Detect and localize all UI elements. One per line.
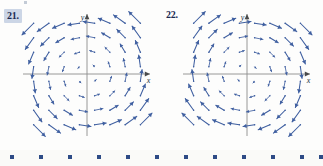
vector-arrow	[216, 105, 225, 111]
vector-arrow	[239, 35, 248, 39]
vector-tail-dot	[79, 37, 81, 39]
vector-arrow	[48, 110, 57, 119]
vector-tail-dot	[79, 110, 81, 112]
vector-field-figure-22: xy	[178, 8, 318, 146]
vector-arrow	[109, 91, 115, 97]
vector-arrow	[300, 52, 306, 64]
vector-arrow	[208, 44, 214, 53]
vector-arrow	[79, 110, 88, 114]
vector-tail-dot	[269, 124, 271, 126]
vector-tail-dot	[193, 95, 195, 97]
vector-arrow	[234, 94, 240, 97]
vector-arrow	[140, 113, 152, 125]
vector-tail-dot	[109, 52, 111, 54]
x-axis-label: x	[146, 76, 151, 85]
vector-tail-dot	[223, 37, 225, 39]
vector-tail-dot	[94, 95, 96, 97]
vector-arrow	[117, 29, 126, 38]
quiver-svg-22: xy	[178, 8, 318, 146]
vector-arrow	[124, 116, 136, 125]
vector-tail-dot	[94, 52, 96, 54]
vector-tail-dot	[300, 23, 302, 25]
vector-tail-dot	[124, 124, 126, 126]
vector-arrow	[284, 37, 293, 46]
vector-tail-dot	[208, 52, 210, 54]
vector-tail-dot	[223, 66, 225, 68]
vector-tail-dot	[284, 23, 286, 25]
vector-arrow	[63, 110, 72, 116]
vector-arrow	[48, 81, 52, 90]
vector-tail-dot	[269, 95, 271, 97]
vector-arrow	[102, 33, 111, 39]
vector-arrow	[41, 37, 50, 46]
vector-tail-dot	[109, 124, 111, 126]
vector-tail-dot	[140, 23, 142, 25]
vector-arrow	[74, 52, 80, 55]
decorative-square	[319, 155, 323, 159]
vector-tail-dot	[109, 37, 111, 39]
vector-field-figure-21: xy	[18, 8, 158, 146]
vector-tail-dot	[284, 95, 286, 97]
vector-tail-dot	[79, 124, 81, 126]
vector-arrow	[269, 52, 275, 58]
vector-tail-dot	[48, 110, 50, 112]
vector-tail-dot	[284, 66, 286, 68]
vector-tail-dot	[208, 66, 210, 68]
vector-tail-dot	[124, 110, 126, 112]
vector-tail-dot	[300, 81, 302, 83]
vector-arrow	[268, 81, 271, 87]
vector-arrow	[185, 99, 194, 111]
vector-arrow	[113, 15, 125, 24]
vector-arrow	[254, 37, 263, 41]
vector-arrow	[120, 44, 126, 53]
vector-tail-dot	[223, 52, 225, 54]
y-axis-label: y	[80, 13, 85, 22]
vector-arrow	[78, 66, 80, 68]
vector-arrow	[135, 41, 141, 53]
decorative-square	[68, 155, 72, 159]
vector-tail-dot	[239, 23, 241, 25]
vector-arrow	[253, 81, 255, 83]
vector-arrow	[265, 95, 271, 101]
vector-arrow	[59, 52, 65, 58]
decorative-square	[242, 155, 246, 159]
textbook-page: 21. xy 22. xy	[0, 0, 323, 166]
vector-arrow	[94, 94, 100, 97]
vector-arrow	[300, 37, 309, 49]
vector-arrow	[79, 95, 85, 98]
vector-arrow	[129, 12, 141, 24]
vector-tail-dot	[284, 81, 286, 83]
vector-arrow	[282, 81, 286, 90]
vector-arrow	[269, 23, 281, 29]
vector-tail-dot	[300, 124, 302, 126]
vector-tail-dot	[48, 52, 50, 54]
vector-tail-dot	[223, 95, 225, 97]
vector-arrow	[98, 18, 110, 24]
vector-tail-dot	[254, 110, 256, 112]
vector-tail-dot	[269, 66, 271, 68]
vector-arrow	[223, 47, 229, 53]
vector-tail-dot	[254, 52, 256, 54]
vector-arrow	[219, 91, 225, 97]
vector-arrow	[273, 124, 285, 133]
vector-tail-dot	[239, 110, 241, 112]
vector-arrow	[246, 110, 255, 114]
vector-tail-dot	[193, 81, 195, 83]
decorative-square	[10, 155, 14, 159]
vector-arrowhead	[282, 87, 285, 90]
vector-tail-dot	[94, 110, 96, 112]
vector-arrow	[33, 110, 42, 122]
vector-arrow	[223, 18, 235, 24]
vector-arrowhead	[122, 58, 125, 61]
vector-tail-dot	[208, 124, 210, 126]
vector-tail-dot	[63, 37, 65, 39]
vector-arrow	[105, 47, 111, 53]
vector-tail-dot	[223, 23, 225, 25]
vector-tail-dot	[223, 110, 225, 112]
vector-arrow	[33, 95, 39, 107]
vector-tail-dot	[269, 37, 271, 39]
vector-arrow	[284, 23, 296, 32]
vector-tail-dot	[109, 95, 111, 97]
vector-arrow	[193, 41, 199, 53]
vector-arrow	[30, 66, 34, 78]
